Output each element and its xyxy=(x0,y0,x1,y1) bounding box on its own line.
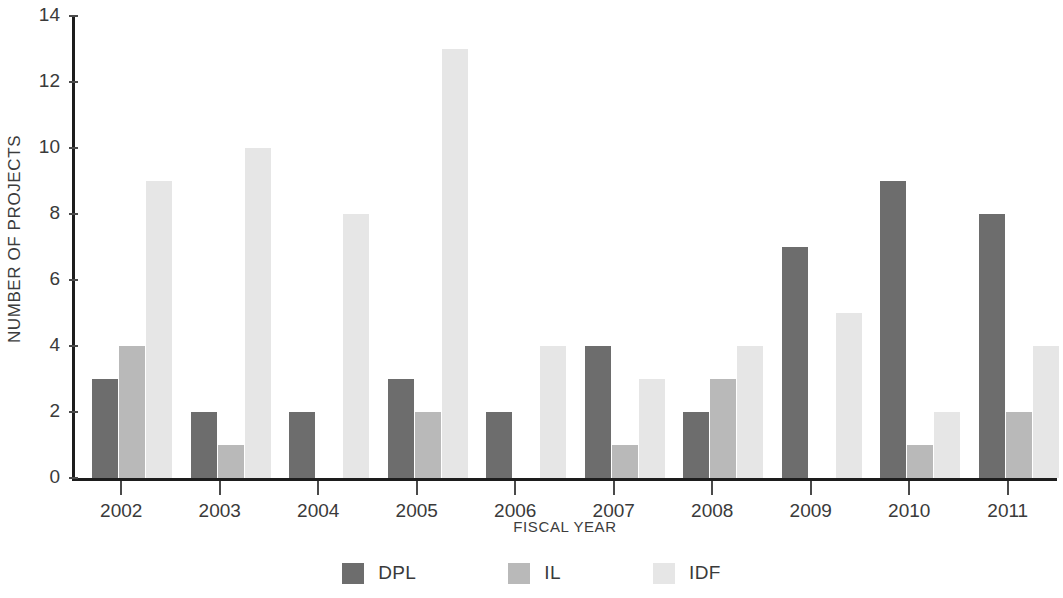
legend-label: IL xyxy=(544,562,561,584)
bar-idf-2011 xyxy=(1033,346,1059,478)
y-axis-tick: 12 xyxy=(69,81,78,83)
y-axis-tick: 10 xyxy=(69,147,78,149)
y-axis-tick: 8 xyxy=(69,213,78,215)
x-axis-tick xyxy=(317,481,319,495)
legend-item-il[interactable]: IL xyxy=(508,562,561,584)
y-axis-tick-label: 4 xyxy=(26,334,60,356)
bar-dpl-2002 xyxy=(92,379,118,478)
bar-idf-2009 xyxy=(836,313,862,478)
bar-il-2003 xyxy=(218,445,244,478)
x-axis-title: FISCAL YEAR xyxy=(70,518,1060,535)
legend-swatch-icon xyxy=(342,563,364,584)
y-axis-tick: 6 xyxy=(69,279,78,281)
legend-swatch-icon xyxy=(653,563,675,584)
plot-area: 02468101214 2002200320042005200620072008… xyxy=(72,16,1057,480)
x-axis-tick xyxy=(416,481,418,495)
y-axis-tick-label: 10 xyxy=(26,136,60,158)
legend-label: IDF xyxy=(689,562,721,584)
bar-idf-2002 xyxy=(146,181,172,478)
legend-item-idf[interactable]: IDF xyxy=(653,562,721,584)
x-axis-tick xyxy=(219,481,221,495)
chart-legend: DPLILIDF xyxy=(0,562,1063,584)
bar-il-2007 xyxy=(612,445,638,478)
bar-dpl-2005 xyxy=(388,379,414,478)
x-axis-tick xyxy=(908,481,910,495)
bar-idf-2008 xyxy=(737,346,763,478)
y-axis-tick: 14 xyxy=(69,15,78,17)
bar-idf-2004 xyxy=(343,214,369,478)
bar-il-2005 xyxy=(415,412,441,478)
legend-swatch-icon xyxy=(508,563,530,584)
bar-dpl-2004 xyxy=(289,412,315,478)
bar-dpl-2007 xyxy=(585,346,611,478)
y-axis-tick-label: 14 xyxy=(26,4,60,26)
bar-il-2010 xyxy=(907,445,933,478)
x-axis-tick xyxy=(810,481,812,495)
y-axis-tick: 0 xyxy=(69,477,78,479)
x-axis-tick xyxy=(1007,481,1009,495)
x-axis-tick xyxy=(711,481,713,495)
y-axis-tick-label: 0 xyxy=(26,466,60,488)
y-axis-tick-label: 6 xyxy=(26,268,60,290)
y-axis-tick: 2 xyxy=(69,411,78,413)
y-axis-tick-label: 2 xyxy=(26,400,60,422)
bar-chart-figure: NUMBER OF PROJECTS 02468101214 200220032… xyxy=(0,0,1063,598)
bar-il-2002 xyxy=(119,346,145,478)
y-axis-tick-label: 8 xyxy=(26,202,60,224)
x-axis-tick xyxy=(514,481,516,495)
bar-dpl-2010 xyxy=(880,181,906,478)
bar-dpl-2003 xyxy=(191,412,217,478)
bar-dpl-2009 xyxy=(782,247,808,478)
bar-idf-2006 xyxy=(540,346,566,478)
bar-idf-2010 xyxy=(934,412,960,478)
bar-il-2011 xyxy=(1006,412,1032,478)
y-axis-tick: 4 xyxy=(69,345,78,347)
bar-idf-2005 xyxy=(442,49,468,478)
bar-dpl-2008 xyxy=(683,412,709,478)
bar-dpl-2006 xyxy=(486,412,512,478)
y-axis-tick-label: 12 xyxy=(26,70,60,92)
bar-il-2008 xyxy=(710,379,736,478)
bar-idf-2003 xyxy=(245,148,271,478)
bar-idf-2007 xyxy=(639,379,665,478)
x-axis-tick xyxy=(613,481,615,495)
legend-item-dpl[interactable]: DPL xyxy=(342,562,416,584)
bar-dpl-2011 xyxy=(979,214,1005,478)
legend-label: DPL xyxy=(378,562,416,584)
x-axis-tick xyxy=(120,481,122,495)
